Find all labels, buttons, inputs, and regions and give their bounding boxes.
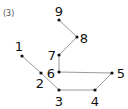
dot-6 xyxy=(57,70,60,73)
dot-label-5: 5 xyxy=(117,66,125,81)
dot-3 xyxy=(57,88,60,91)
dot-1 xyxy=(20,54,23,57)
dot-label-3: 3 xyxy=(55,94,63,109)
dot-5 xyxy=(110,71,113,74)
dot-path-diagram: 123456789 xyxy=(0,0,128,109)
dot-label-4: 4 xyxy=(91,94,99,109)
dot-label-7: 7 xyxy=(48,48,56,63)
dot-2 xyxy=(39,71,42,74)
dot-label-2: 2 xyxy=(36,76,44,91)
dot-label-1: 1 xyxy=(15,39,23,54)
dot-label-8: 8 xyxy=(80,31,88,46)
dot-label-6: 6 xyxy=(47,66,55,81)
dot-label-9: 9 xyxy=(55,4,63,19)
connect-the-dots-figure: (3) 123456789 xyxy=(0,0,128,109)
dot-4 xyxy=(93,88,96,91)
dot-8 xyxy=(75,35,78,38)
dot-7 xyxy=(57,53,60,56)
